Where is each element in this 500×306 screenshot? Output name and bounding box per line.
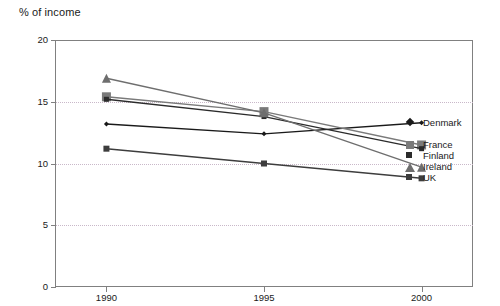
- y-tick-label-5: 5: [16, 219, 48, 230]
- y-tick-mark-15: [51, 102, 56, 103]
- legend-label-denmark: Denmark: [423, 116, 462, 130]
- x-tick-mark-2000: [422, 287, 423, 292]
- gridline-5: [56, 225, 473, 226]
- y-tick-mark-10: [51, 164, 56, 165]
- x-tick-label-2000: 2000: [397, 292, 447, 303]
- legend-marker-square-icon: [406, 174, 412, 180]
- x-tick-label-1990: 1990: [81, 292, 131, 303]
- y-axis-title: % of income: [19, 6, 81, 18]
- y-tick-label-20: 20: [16, 34, 48, 45]
- y-tick-label-0: 0: [16, 281, 48, 292]
- legend-marker-square-icon: [406, 141, 414, 149]
- x-tick-label-1995: 1995: [239, 292, 289, 303]
- chart-container: % of income 05101520 199019952000 Denmar…: [0, 0, 500, 306]
- x-tick-mark-1990: [106, 287, 107, 292]
- y-tick-mark-0: [51, 287, 56, 288]
- y-tick-label-10: 10: [16, 158, 48, 169]
- y-tick-mark-20: [51, 40, 56, 41]
- legend-marker-square-icon: [406, 152, 412, 158]
- gridline-15: [56, 102, 473, 103]
- x-tick-mark-1995: [264, 287, 265, 292]
- legend-label-uk: UK: [423, 171, 436, 185]
- y-tick-label-15: 15: [16, 96, 48, 107]
- y-tick-mark-5: [51, 225, 56, 226]
- legend-marker-triangle-icon: [405, 163, 415, 172]
